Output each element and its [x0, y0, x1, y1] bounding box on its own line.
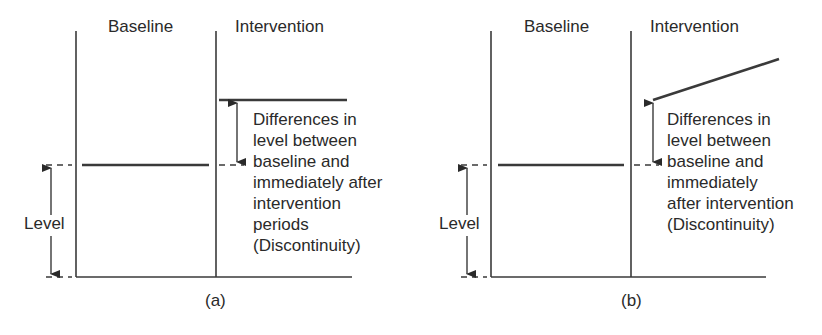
panel-b-level-label: Level	[439, 214, 480, 234]
panel-b-difference-annotation: Differences in level between baseline an…	[667, 109, 794, 235]
panel-b-intervention-label: Intervention	[650, 17, 739, 37]
panel-b-intervention-trend-line	[653, 59, 779, 100]
panel-a-level-label: Level	[24, 214, 65, 234]
panel-a-baseline-label: Baseline	[108, 17, 173, 37]
panel-a-caption-label: (a)	[205, 291, 226, 311]
panel-a-difference-annotation: Differences in level between baseline an…	[253, 109, 382, 256]
truncated-figure-caption	[24, 329, 804, 335]
panel-b-caption-label: (b)	[621, 291, 642, 311]
panel-a-intervention-label: Intervention	[235, 17, 324, 37]
panel-b-baseline-label: Baseline	[524, 17, 589, 37]
